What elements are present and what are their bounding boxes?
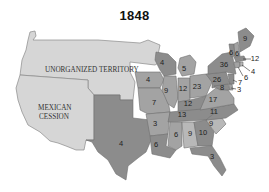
ev-maine: 9 (243, 34, 247, 43)
ev-new-york: 36 (220, 60, 228, 69)
ev-indiana: 12 (179, 84, 187, 93)
leader-connecticut (238, 67, 243, 76)
ev-south-carolina: 9 (209, 119, 213, 128)
ev-mississippi: 6 (174, 130, 178, 139)
mexican-cession-label-line1: MEXICAN (38, 104, 72, 112)
ev-louisiana: 6 (154, 140, 158, 149)
ev-ohio: 23 (193, 82, 201, 91)
state-arkansas[interactable] (146, 112, 170, 136)
ev-maryland: 8 (220, 83, 224, 92)
ev-tennessee: 13 (178, 110, 186, 119)
us-map-1848: UNORGANIZED TERRITORY MEXICAN CESSION 4 … (0, 0, 269, 192)
ev-illinois: 9 (164, 86, 168, 95)
state-florida[interactable] (190, 146, 226, 176)
ev-north-carolina: 11 (210, 107, 218, 116)
ev-kentucky: 12 (184, 99, 192, 108)
ev-missouri: 7 (152, 98, 156, 107)
leader-rhode-island (242, 65, 250, 71)
ev-texas: 4 (119, 139, 123, 148)
ev-florida: 3 (210, 152, 214, 161)
state-connecticut[interactable] (234, 62, 240, 68)
ev-rhode-island: 4 (251, 67, 255, 76)
state-delaware[interactable] (229, 84, 233, 90)
ev-iowa: 4 (146, 75, 150, 84)
ev-virginia: 17 (209, 95, 217, 104)
ev-new-jersey: 7 (238, 78, 242, 87)
mexican-cession-label-line2: CESSION (39, 113, 70, 121)
ev-new-hampshire: 6 (235, 49, 239, 58)
unorganized-territory-label: UNORGANIZED TERRITORY (45, 66, 140, 74)
ev-georgia: 10 (199, 128, 207, 137)
ev-alabama: 9 (188, 129, 192, 138)
ev-vermont: 6 (229, 48, 233, 57)
state-michigan[interactable] (178, 55, 196, 76)
ev-michigan: 5 (182, 64, 186, 73)
ev-arkansas: 3 (153, 119, 157, 128)
ev-massachusetts: 12 (251, 54, 259, 63)
ev-connecticut: 6 (244, 73, 248, 82)
ev-wisconsin: 4 (160, 58, 164, 67)
